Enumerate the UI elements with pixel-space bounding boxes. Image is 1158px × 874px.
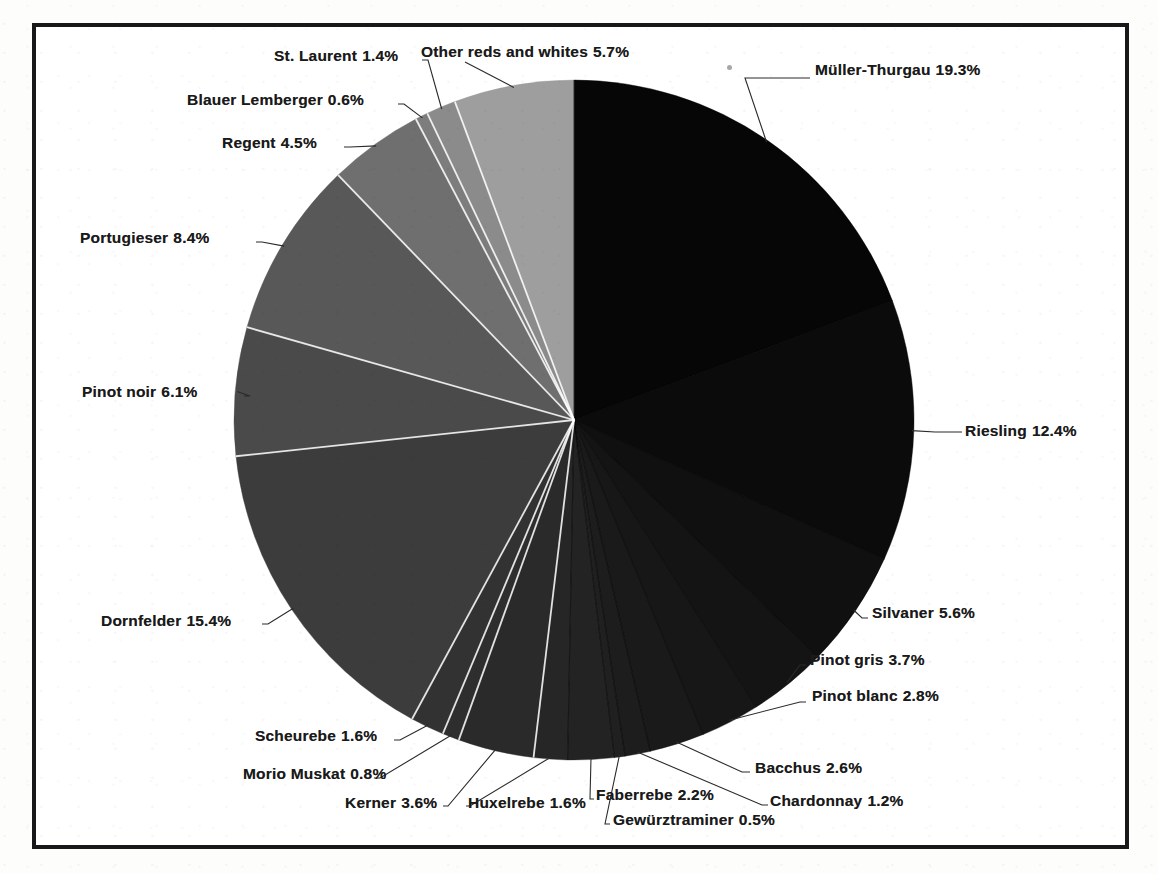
label-name: Bacchus bbox=[755, 759, 821, 776]
label-value: 3.6% bbox=[401, 794, 437, 811]
label-name: Other reds and whites bbox=[421, 43, 588, 60]
label-kerner: Kerner3.6% bbox=[345, 795, 437, 811]
label-bacchus: Bacchus2.6% bbox=[755, 760, 862, 776]
label-name: Scheurebe bbox=[255, 727, 336, 744]
label-name: Blauer Lemberger bbox=[187, 91, 323, 108]
label-name: Kerner bbox=[345, 794, 396, 811]
label-name: Müller-Thurgau bbox=[815, 61, 931, 78]
label-morio-muskat: Morio Muskat0.8% bbox=[243, 766, 386, 782]
scan-artifact-dot bbox=[727, 65, 732, 70]
leader-line-bacchus bbox=[676, 742, 750, 772]
leader-line-other-reds-and-whites bbox=[465, 62, 514, 87]
label-value: 1.6% bbox=[341, 727, 377, 744]
label-name: Dornfelder bbox=[101, 612, 181, 629]
leader-line-scheurebe bbox=[394, 725, 428, 740]
label-faberrebe: Faberrebe2.2% bbox=[596, 787, 714, 803]
label-value: 12.4% bbox=[1032, 422, 1077, 439]
leader-line-st-laurent bbox=[422, 60, 442, 109]
label-scheurebe: Scheurebe1.6% bbox=[255, 728, 377, 744]
label-name: Portugieser bbox=[80, 229, 168, 246]
leader-line-riesling bbox=[912, 431, 962, 432]
label-chardonnay: Chardonnay1.2% bbox=[770, 793, 904, 809]
label-silvaner: Silvaner5.6% bbox=[872, 605, 975, 621]
label-value: 19.3% bbox=[936, 61, 981, 78]
label-name: Chardonnay bbox=[770, 792, 862, 809]
label-value: 8.4% bbox=[173, 229, 209, 246]
label-name: Huxelrebe bbox=[468, 794, 545, 811]
label-pinot-noir: Pinot noir6.1% bbox=[82, 384, 197, 400]
label-value: 0.8% bbox=[350, 765, 386, 782]
label-value: 1.4% bbox=[362, 47, 398, 64]
label-name: Faberrebe bbox=[596, 786, 673, 803]
label-value: 4.5% bbox=[281, 134, 317, 151]
label-name: Riesling bbox=[965, 422, 1027, 439]
label-value: 3.7% bbox=[888, 651, 924, 668]
label-huxelrebe: Huxelrebe1.6% bbox=[468, 795, 586, 811]
label-name: Gewürztraminer bbox=[613, 811, 734, 828]
label-blauer-lemberger: Blauer Lemberger0.6% bbox=[187, 92, 364, 108]
label-name: St. Laurent bbox=[274, 47, 357, 64]
label-value: 1.6% bbox=[550, 794, 586, 811]
label-value: 2.6% bbox=[826, 759, 862, 776]
label-value: 2.8% bbox=[903, 687, 939, 704]
leader-line-dornfelder bbox=[262, 608, 293, 624]
label-dornfelder: Dornfelder15.4% bbox=[101, 613, 231, 629]
leader-line-faberrebe bbox=[590, 758, 594, 799]
leader-line-blauer-lemberger bbox=[398, 104, 422, 118]
leader-line-silvaner bbox=[854, 610, 868, 618]
label-name: Pinot noir bbox=[82, 383, 156, 400]
leader-line-portugieser bbox=[256, 242, 284, 246]
label-portugieser: Portugieser8.4% bbox=[80, 230, 209, 246]
label-value: 0.5% bbox=[739, 811, 775, 828]
label-name: Pinot gris bbox=[810, 651, 883, 668]
label-value: 15.4% bbox=[186, 612, 231, 629]
label-value: 0.6% bbox=[328, 91, 364, 108]
label-value: 6.1% bbox=[161, 383, 197, 400]
label-name: Silvaner bbox=[872, 604, 934, 621]
label-pinot-blanc: Pinot blanc2.8% bbox=[812, 688, 939, 704]
label-muller-thurgau: Müller-Thurgau19.3% bbox=[815, 62, 981, 78]
label-value: 1.2% bbox=[867, 792, 903, 809]
label-value: 2.2% bbox=[678, 786, 714, 803]
label-gewurztraminer: Gewürztraminer0.5% bbox=[613, 812, 775, 828]
label-st-laurent: St. Laurent1.4% bbox=[274, 48, 398, 64]
label-pinot-gris: Pinot gris3.7% bbox=[810, 652, 925, 668]
label-riesling: Riesling12.4% bbox=[965, 423, 1077, 439]
label-regent: Regent4.5% bbox=[222, 135, 317, 151]
label-name: Morio Muskat bbox=[243, 765, 345, 782]
label-name: Regent bbox=[222, 134, 276, 151]
label-other-reds-and-whites: Other reds and whites5.7% bbox=[421, 44, 629, 60]
label-value: 5.6% bbox=[939, 604, 975, 621]
label-value: 5.7% bbox=[593, 43, 629, 60]
label-name: Pinot blanc bbox=[812, 687, 898, 704]
screenshot-page: St. Laurent1.4% Other reds and whites5.7… bbox=[0, 0, 1158, 874]
